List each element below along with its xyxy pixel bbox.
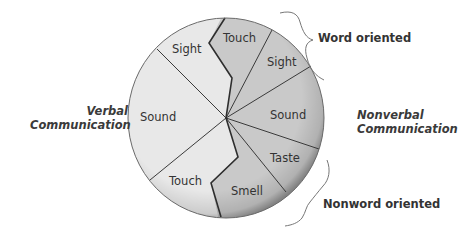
verbal-label-line1: Verbal <box>30 104 128 118</box>
nonword-oriented-label: Nonword oriented <box>323 197 440 211</box>
nonverbal-communication-label: Nonverbal Communication <box>357 108 463 136</box>
verbal-communication-label: Verbal Communication <box>30 104 128 132</box>
segment-label-verbal-sound: Sound <box>140 110 176 124</box>
segment-label-verbal-sight: Sight <box>172 42 202 56</box>
segment-label-nonverbal-smell: Smell <box>231 184 263 198</box>
verbal-label-line2: Communication <box>30 118 128 132</box>
segment-label-verbal-touch: Touch <box>168 174 202 188</box>
segment-label-nonverbal-sound: Sound <box>270 108 306 122</box>
nonverbal-label-line2: Communication <box>357 122 463 136</box>
segment-label-nonverbal-sight: Sight <box>267 55 297 69</box>
nonverbal-label-line1: Nonverbal <box>357 108 463 122</box>
segment-label-nonverbal-touch: Touch <box>222 31 256 45</box>
word-oriented-label: Word oriented <box>318 31 411 45</box>
segment-label-nonverbal-taste: Taste <box>269 151 300 165</box>
